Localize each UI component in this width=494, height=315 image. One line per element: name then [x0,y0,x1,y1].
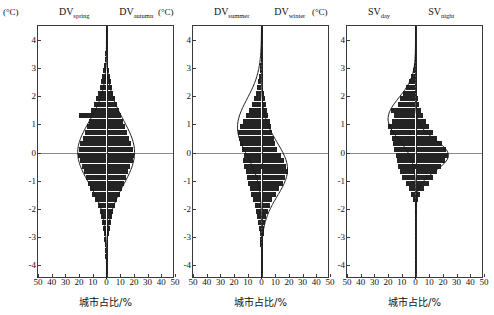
panel-1-right-series-label: DVautumn [119,6,153,19]
histogram-bar-left [89,119,107,124]
histogram-bar-right [107,136,130,141]
histogram-bar-right [262,57,263,62]
histogram-bar-right [262,237,264,242]
histogram-bar-right [107,68,110,73]
histogram-bar-right [416,158,445,163]
histogram-bar-right [416,192,421,197]
histogram-bar-left [80,141,106,146]
y-tick-label: 3 [32,64,37,73]
y-tick-label: -2 [29,204,37,213]
histogram-bar-left [79,147,106,152]
histogram-bar-right [416,181,429,186]
histogram-bar-left [397,158,415,163]
x-tick-label: 10 [271,278,280,287]
histogram-bar-right [107,169,129,174]
histogram-bar-left [251,192,261,197]
histogram-bar-left [390,130,415,135]
histogram-bar-right [262,141,276,146]
histogram-bar-right [262,242,263,247]
histogram-bar-left [82,164,107,169]
y-tick-label: -1 [29,176,37,185]
y-tick-label: -4 [338,260,346,269]
x-tick-label: 20 [129,278,138,287]
histogram-bar-left [391,108,416,113]
histogram-bar-left [85,130,107,135]
histogram-bar-right [107,214,112,219]
y-tick-label: -3 [29,232,37,241]
y-tick-mark [347,68,350,69]
histogram-bar-right [262,254,263,259]
panel-3-plot-area: 43210-1-2-3-4504030201001020304050 [346,25,483,278]
histogram-bar-right [107,220,111,225]
y-tick-mark [347,181,350,182]
y-axis-unit-label: (°C) [312,7,328,17]
histogram-bar-left [243,158,261,163]
histogram-bar-left [249,108,261,113]
x-tick-label: 10 [425,278,434,287]
histogram-bar-left [100,85,107,90]
histogram-bar-right [262,136,274,141]
histogram-bar-right [107,226,110,231]
y-tick-label: -2 [338,204,346,213]
histogram-bar-right [262,164,287,169]
y-tick-mark [38,265,41,266]
y-tick-label: 4 [187,36,192,45]
y-tick-mark [347,124,350,125]
histogram-bar-left [394,113,415,118]
histogram-bar-left [94,102,106,107]
histogram-bar-right [107,242,109,247]
histogram-bar-left [84,169,107,174]
y-tick-label: 2 [32,92,37,101]
histogram-bar-left [253,197,262,202]
x-tick-label: 50 [34,278,43,287]
y-tick-label: 0 [341,148,346,157]
histogram-bar-right [416,141,442,146]
x-tick-label: 50 [343,278,352,287]
y-tick-label: 0 [187,148,192,157]
histogram-bar-left [398,164,415,169]
histogram-bar-left [396,153,416,158]
histogram-bar-right [416,102,420,107]
histogram-bar-right [262,74,263,79]
histogram-bar-left [80,158,107,163]
histogram-bar-right [262,158,285,163]
histogram-bar-right [416,153,449,158]
figure-root: (°C)DVspringDVautumn43210-1-2-3-45040302… [0,0,494,315]
histogram-bar-left [250,186,262,191]
histogram-bar-right [416,164,441,169]
histogram-bar-left [98,91,106,96]
x-tick-label: 50 [189,278,198,287]
histogram-bar-right [107,186,123,191]
histogram-bar-right [262,91,265,96]
histogram-bar-right [416,186,425,191]
panel-2-right-series-label: DVwinter [274,6,305,19]
histogram-bar-right [262,96,265,101]
y-tick-label: 4 [341,36,346,45]
histogram-bar-left [247,175,261,180]
histogram-bar-right [416,108,421,113]
histogram-bar-left [402,175,415,180]
histogram-bar-right [107,265,108,270]
histogram-bar-right [262,153,281,158]
histogram-bar-right [262,226,265,231]
histogram-bar-right [107,91,114,96]
y-tick-mark [38,181,41,182]
x-tick-label: 10 [88,278,97,287]
histogram-bar-left [415,57,416,62]
histogram-bar-right [262,186,280,191]
x-tick-label: 40 [157,278,166,287]
histogram-bar-right [107,237,109,242]
histogram-bar-left [406,85,416,90]
histogram-bar-left [388,124,415,129]
panel-2-x-axis-label: 城市占比/% [234,294,287,309]
histogram-bar-right [107,63,109,68]
histogram-bar-right [107,141,132,146]
histogram-bar-right [262,192,276,197]
histogram-bar-right [107,113,121,118]
x-tick-label: 40 [356,278,365,287]
x-tick-label: 30 [61,278,70,287]
histogram-bar-left [98,203,107,208]
histogram-bar-right [107,203,115,208]
histogram-bar-left [100,209,107,214]
x-tick-label: 50 [326,278,335,287]
